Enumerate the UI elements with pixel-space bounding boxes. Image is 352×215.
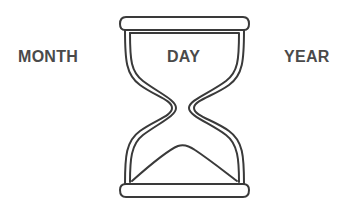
hourglass-bottom-cap	[120, 184, 249, 197]
hourglass-sand	[132, 145, 237, 181]
hourglass-outer-glass	[125, 30, 172, 184]
hourglass-icon	[0, 0, 352, 215]
hourglass-top-cap	[120, 17, 249, 30]
year-label: YEAR	[284, 49, 330, 65]
day-label: DAY	[167, 49, 200, 65]
month-label: MONTH	[18, 49, 78, 65]
